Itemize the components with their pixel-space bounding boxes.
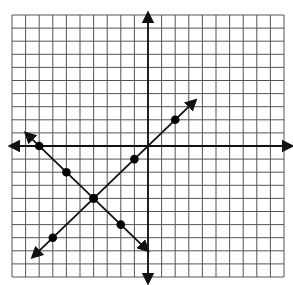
line-negative-slope (26, 133, 148, 251)
data-point (49, 233, 58, 242)
data-point (62, 168, 71, 177)
data-point (171, 116, 180, 125)
data-point (35, 142, 44, 151)
data-point (89, 194, 98, 203)
coordinate-plane (0, 0, 293, 285)
line-positive-slope (32, 100, 195, 257)
data-point (130, 155, 139, 164)
data-point (117, 220, 126, 229)
